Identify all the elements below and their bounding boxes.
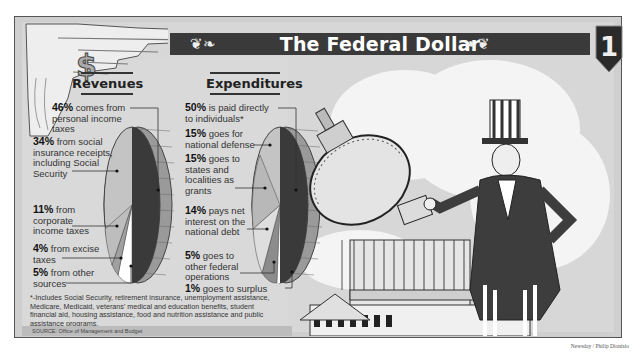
footnote: *-Includes Social Security, retirement i… bbox=[30, 294, 270, 328]
capitol-uncle-sam-illustration bbox=[290, 90, 620, 336]
credit-line: Newsday / Philip Dionisio bbox=[571, 343, 629, 349]
source-note: SOURCE: Office of Management and Budget bbox=[22, 326, 292, 336]
